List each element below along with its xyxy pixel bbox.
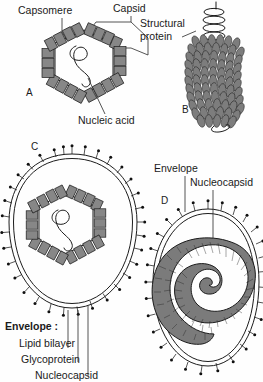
helix-nucleic-acid-bottom xyxy=(211,125,229,132)
panel-letter-c: C xyxy=(31,141,38,152)
capsomere-ring-c xyxy=(26,185,106,265)
nucleocapsid-coil-body xyxy=(152,238,255,344)
coiled-nucleocapsid-d xyxy=(152,238,255,344)
virus-structure-figure: Capsomere Capsid xyxy=(0,0,263,382)
label-glycoprotein: Glycoprotein xyxy=(21,353,80,365)
panel-letter-b: B xyxy=(182,104,189,115)
panel-letter-d: D xyxy=(161,195,168,206)
label-lipid-bilayer: Lipid bilayer xyxy=(19,337,76,349)
diagram-canvas: Capsomere Capsid xyxy=(0,0,263,382)
label-structural-protein-line2: protein xyxy=(140,30,172,42)
label-nucleocapsid-d: Nucleocapsid xyxy=(190,176,253,188)
envelope-legend-block: Envelope : Lipid bilayer Glycoprotein Nu… xyxy=(5,306,98,381)
panel-c: C xyxy=(0,141,146,317)
panel-d: Envelope Nucleocapsid D xyxy=(144,162,263,375)
panel-b: Structural protein xyxy=(140,2,246,132)
nucleic-acid-strand-a xyxy=(70,46,90,87)
label-envelope-heading: Envelope : xyxy=(5,320,58,332)
label-capsid: Capsid xyxy=(113,2,146,14)
helix-nucleic-acid-top xyxy=(203,2,225,40)
glycoprotein-spikes-c xyxy=(0,144,146,316)
label-envelope-d: Envelope xyxy=(154,162,198,174)
label-nucleic-acid: Nucleic acid xyxy=(78,114,135,126)
label-capsomere: Capsomere xyxy=(18,4,72,16)
nucleic-acid-strand-c xyxy=(52,210,72,251)
label-structural-protein-line1: Structural xyxy=(140,17,185,29)
label-nucleocapsid-c: Nucleocapsid xyxy=(35,369,98,381)
panel-a: Capsomere Capsid xyxy=(18,2,148,126)
panel-letter-a: A xyxy=(26,87,33,98)
helical-capsid-rod xyxy=(183,34,246,129)
